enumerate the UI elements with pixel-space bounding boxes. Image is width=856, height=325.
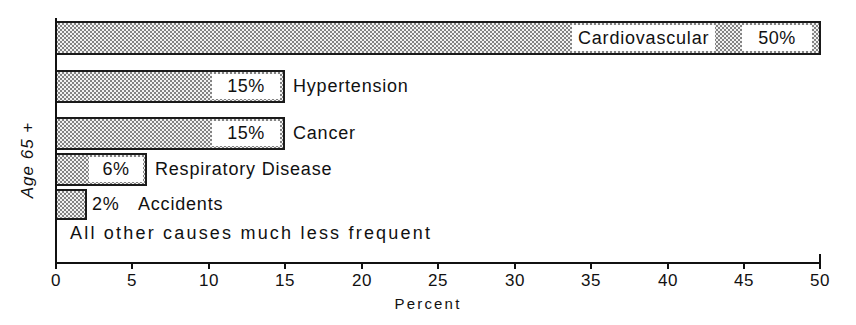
x-tick-35: [590, 262, 592, 269]
y-axis-line: [55, 18, 57, 264]
x-tick-45: [743, 262, 745, 269]
x-tick-0: [55, 262, 57, 269]
x-tick-50: [819, 262, 821, 269]
x-tick-label-45: 45: [734, 271, 754, 291]
x-tick-label-5: 5: [127, 271, 137, 291]
x-tick-label-0: 0: [51, 271, 61, 291]
x-axis-title: Percent: [0, 295, 856, 312]
x-tick-label-30: 30: [505, 271, 525, 291]
bar-label-hypertension: Hypertension: [293, 74, 409, 99]
x-tick-label-10: 10: [199, 271, 219, 291]
bar-accidents: [55, 189, 87, 220]
x-tick-5: [131, 262, 133, 269]
x-tick-40: [667, 262, 669, 269]
footnote-all-other-causes: All other causes much less frequent: [70, 219, 432, 247]
x-tick-label-40: 40: [658, 271, 678, 291]
x-tick-30: [514, 262, 516, 269]
x-tick-label-15: 15: [275, 271, 295, 291]
x-tick-25: [437, 262, 439, 269]
bar-label-respiratory-disease: Respiratory Disease: [155, 157, 332, 182]
x-tick-label-25: 25: [428, 271, 448, 291]
x-tick-10: [208, 262, 210, 269]
x-tick-label-35: 35: [581, 271, 601, 291]
y-axis-title: Age 65 +: [18, 100, 38, 220]
bar-value-cardiovascular: 50%: [742, 25, 812, 51]
bar-value-cancer: 15%: [212, 121, 280, 146]
bar-value-accidents: 2%: [92, 192, 120, 217]
bar-value-respiratory-disease: 6%: [89, 157, 143, 182]
x-tick-15: [284, 262, 286, 269]
bar-value-hypertension: 15%: [212, 74, 280, 99]
x-tick-label-50: 50: [810, 271, 830, 291]
bar-chart: Cardiovascular 50% 15% Hypertension 15% …: [0, 0, 856, 325]
x-tick-label-20: 20: [352, 271, 372, 291]
x-tick-20: [361, 262, 363, 269]
bar-label-cardiovascular: Cardiovascular: [572, 25, 715, 51]
bar-label-accidents: Accidents: [138, 192, 223, 217]
bar-label-cancer: Cancer: [293, 121, 356, 146]
